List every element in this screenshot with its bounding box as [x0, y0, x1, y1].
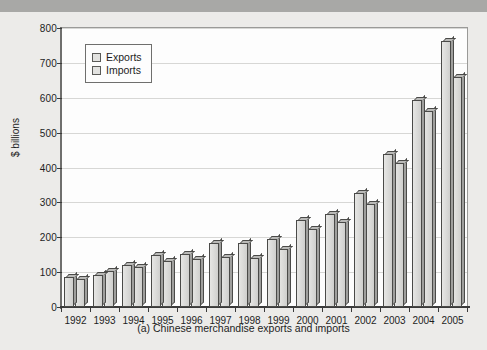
bar-side-bevel [422, 95, 425, 305]
bar-side-bevel [190, 249, 193, 305]
legend-label-exports: Exports [106, 51, 142, 63]
x-tick-mark-1996 [177, 307, 178, 312]
y-tick-label-800: 800 [40, 23, 57, 34]
chart-legend: Exports Imports [85, 44, 152, 83]
bar-top-bevel [164, 258, 177, 261]
x-tick-mark-1994 [119, 307, 120, 312]
bar-side-bevel [172, 256, 175, 305]
bar-face [209, 243, 219, 307]
bar-face [180, 254, 190, 307]
bar-exports-1993 [93, 275, 103, 307]
bar-side-bevel [317, 224, 320, 305]
x-tick-mark-1998 [235, 307, 236, 312]
bar-exports-1996 [180, 254, 190, 307]
legend-label-imports: Imports [106, 64, 141, 76]
legend-item-exports: Exports [92, 51, 142, 63]
y-tick-label-500: 500 [40, 127, 57, 138]
bar-top-bevel [298, 217, 311, 220]
legend-swatch-imports [92, 66, 101, 75]
bar-face [383, 154, 393, 307]
bar-top-bevel [385, 151, 398, 154]
bar-group-1997 [206, 28, 235, 307]
bar-top-bevel [124, 262, 137, 265]
bar-side-bevel [248, 238, 251, 305]
bar-exports-1998 [238, 243, 248, 307]
bar-side-bevel [259, 253, 262, 305]
bar-top-bevel [240, 240, 253, 243]
bar-group-2001 [322, 28, 351, 307]
bar-side-bevel [306, 215, 309, 305]
y-tick-label-700: 700 [40, 57, 57, 68]
bar-top-bevel [251, 255, 264, 258]
bar-group-1995 [148, 28, 177, 307]
x-tick-mark-1997 [206, 307, 207, 312]
x-tick-mark-2002 [351, 307, 352, 312]
x-tick-mark-2000 [293, 307, 294, 312]
legend-item-imports: Imports [92, 64, 142, 76]
bar-top-bevel [106, 268, 119, 271]
y-tick-label-400: 400 [40, 162, 57, 173]
bar-face [122, 265, 132, 307]
bar-group-2005 [438, 28, 467, 307]
bar-side-bevel [114, 266, 117, 305]
bar-exports-2003 [383, 154, 393, 307]
x-tick-mark-1992 [61, 307, 62, 312]
bar-side-bevel [277, 234, 280, 305]
bar-side-bevel [346, 217, 349, 305]
bar-top-bevel [193, 256, 206, 259]
bar-group-1999 [264, 28, 293, 307]
x-tick-mark-1995 [148, 307, 149, 312]
bar-side-bevel [143, 262, 146, 305]
x-tick-mark-1999 [264, 307, 265, 312]
plot-wrapper: $ billions 0100200300400500600700800 199… [0, 12, 487, 322]
bar-exports-2002 [354, 193, 364, 307]
bar-side-bevel [288, 244, 291, 305]
bar-side-bevel [404, 158, 407, 305]
bar-side-bevel [393, 149, 396, 305]
x-tick-mark-2005 [438, 307, 439, 312]
bar-face [238, 243, 248, 307]
y-tick-label-0: 0 [51, 302, 57, 313]
bar-side-bevel [201, 254, 204, 305]
y-tick-label-100: 100 [40, 267, 57, 278]
bar-side-bevel [132, 260, 135, 305]
bar-exports-2005 [441, 41, 451, 307]
bar-exports-1997 [209, 243, 219, 307]
bar-top-bevel [211, 240, 224, 243]
bar-group-1998 [235, 28, 264, 307]
x-tick-mark-end [467, 307, 468, 312]
bar-side-bevel [462, 72, 465, 305]
bar-side-bevel [364, 188, 367, 305]
figure-caption: (a) Chinese merchandise exports and impo… [0, 322, 487, 334]
bar-top-bevel [454, 74, 467, 77]
bar-exports-1995 [151, 255, 161, 307]
x-tick-mark-2003 [380, 307, 381, 312]
bar-top-bevel [396, 160, 409, 163]
top-gray-band [0, 0, 487, 12]
bar-top-bevel [443, 38, 456, 41]
x-tick-mark-2001 [322, 307, 323, 312]
bar-side-bevel [161, 250, 164, 305]
bar-top-bevel [280, 246, 293, 249]
bar-exports-1999 [267, 239, 277, 307]
y-axis-label: $ billions [10, 118, 21, 157]
x-tick-mark-1993 [90, 307, 91, 312]
plot-area: 0100200300400500600700800 19921993199419… [60, 27, 468, 308]
y-tick-label-200: 200 [40, 232, 57, 243]
bar-top-bevel [66, 274, 79, 277]
bar-face [151, 255, 161, 307]
bar-group-1996 [177, 28, 206, 307]
bar-group-2004 [409, 28, 438, 307]
bar-side-bevel [74, 272, 77, 305]
y-tick-label-600: 600 [40, 92, 57, 103]
bar-face [325, 214, 335, 307]
legend-swatch-exports [92, 53, 101, 62]
bar-group-2002 [351, 28, 380, 307]
bar-top-bevel [356, 190, 369, 193]
bar-side-bevel [375, 199, 378, 305]
bar-top-bevel [182, 251, 195, 254]
bar-face [296, 220, 306, 307]
bar-top-bevel [153, 252, 166, 255]
bar-exports-2004 [412, 100, 422, 307]
bar-top-bevel [309, 226, 322, 229]
